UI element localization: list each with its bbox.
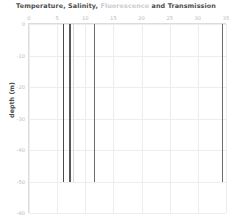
y-tick-label: -30 <box>11 116 25 122</box>
title-word-and: and <box>152 2 166 10</box>
series-line-transmission <box>222 24 223 182</box>
horizontal-gridline <box>29 119 226 120</box>
horizontal-gridline <box>29 213 226 214</box>
chart-figure: Temperature, Salinity, Fluorescence and … <box>0 0 232 224</box>
series-line-salinity <box>69 24 70 182</box>
plot-area: 05101520253035 0-10-20-30-40-50-60 <box>28 23 226 213</box>
x-tick-label: 35 <box>223 15 230 21</box>
vertical-gridline <box>226 24 227 213</box>
x-tick-label: 20 <box>138 15 145 21</box>
x-tick-label: 25 <box>166 15 173 21</box>
title-word-salinity: Salinity, <box>68 2 98 10</box>
x-tick-label: 30 <box>195 15 202 21</box>
horizontal-gridline <box>29 56 226 57</box>
y-tick-label: -50 <box>11 179 25 185</box>
horizontal-gridline <box>29 182 226 183</box>
horizontal-gridline <box>29 87 226 88</box>
y-tick-label: -20 <box>11 84 25 90</box>
series-line-temperature <box>63 24 64 182</box>
x-tick-label: 10 <box>82 15 89 21</box>
y-tick-label: 0 <box>11 21 25 27</box>
x-tick-label: 0 <box>27 15 30 21</box>
x-tick-label: 5 <box>55 15 58 21</box>
title-word-fluorescence: Fluorescence <box>100 2 149 10</box>
y-tick-label: -60 <box>11 210 25 216</box>
title-word-transmission: Transmission <box>168 2 216 10</box>
chart-title: Temperature, Salinity, Fluorescence and … <box>0 2 232 10</box>
series-line-transmission-inner <box>94 24 95 182</box>
y-tick-label: -10 <box>11 53 25 59</box>
series-line-fluorescence <box>73 24 74 182</box>
title-word-temperature: Temperature, <box>16 2 66 10</box>
horizontal-gridline <box>29 24 226 25</box>
horizontal-gridline <box>29 150 226 151</box>
y-tick-label: -40 <box>11 147 25 153</box>
x-tick-label: 15 <box>110 15 117 21</box>
